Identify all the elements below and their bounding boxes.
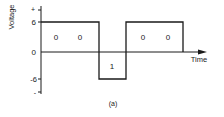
y-tick-label-plus: + — [31, 6, 35, 13]
bit-label-5: 0 — [166, 33, 171, 42]
bit-label-1: 0 — [54, 33, 59, 42]
bit-label-2: 0 — [78, 33, 83, 42]
x-axis-label: Time — [191, 55, 207, 64]
y-tick-label-0: 0 — [32, 48, 37, 57]
x-axis-arrow-icon — [198, 50, 207, 55]
figure-caption: (a) — [109, 100, 118, 108]
y-tick-label-6: 6 — [32, 18, 37, 27]
y-axis-label: Voltage — [7, 4, 16, 29]
bit-label-4: 0 — [141, 33, 146, 42]
y-tick-label-neg6: -6 — [30, 75, 37, 84]
waveform-diagram: Voltage + 6 0 -6 - 0 0 1 0 0 Time (a) — [0, 0, 224, 117]
y-tick-label-minus: - — [34, 89, 37, 96]
bit-label-3: 1 — [110, 62, 115, 71]
